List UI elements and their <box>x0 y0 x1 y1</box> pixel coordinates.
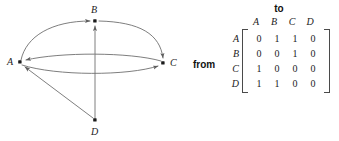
node-label-a: A <box>7 57 13 67</box>
edge-a-to-c <box>22 65 158 73</box>
matrix-cell: 1 <box>250 76 268 91</box>
matrix-column-header: A <box>247 17 265 27</box>
matrix-from-label: from <box>193 60 215 70</box>
matrix-row-header: A <box>229 31 239 46</box>
matrix-column-header: D <box>301 17 319 27</box>
matrix-row-header: D <box>229 76 239 91</box>
table-row: 1 0 0 0 <box>250 61 322 76</box>
matrix-cell: 1 <box>268 76 286 91</box>
matrix-column-header: B <box>265 17 283 27</box>
node-label-b: B <box>91 5 97 15</box>
matrix-to-label: to <box>259 4 299 14</box>
node-dot-a <box>18 60 21 63</box>
adjacency-matrix-panel: to from A B C D A B C D 0 1 1 0 <box>185 0 339 141</box>
matrix-cell: 0 <box>304 61 322 76</box>
directed-graph-panel: A B C D <box>0 0 185 141</box>
node-dot-d <box>93 118 96 121</box>
node-dot-c <box>161 61 164 64</box>
edge-b-to-c <box>99 21 163 58</box>
matrix-column-headers: A B C D <box>247 17 319 27</box>
matrix-cell: 0 <box>268 46 286 61</box>
table-row: 0 0 1 0 <box>250 46 322 61</box>
matrix-row-headers: A B C D <box>229 29 242 93</box>
matrix-cell: 1 <box>286 46 304 61</box>
node-label-c: C <box>170 58 177 68</box>
matrix-cell: 0 <box>286 76 304 91</box>
figure-container: A B C D to from A B C D A B C D 0 1 <box>0 0 339 141</box>
table-row: 0 1 1 0 <box>250 31 322 46</box>
matrix-cell: 1 <box>268 31 286 46</box>
matrix-right-bracket <box>324 29 330 93</box>
matrix-cell: 0 <box>268 61 286 76</box>
matrix-cell: 0 <box>304 76 322 91</box>
node-label-d: D <box>91 127 98 137</box>
matrix-cell: 0 <box>286 61 304 76</box>
matrix-column-header: C <box>283 17 301 27</box>
matrix-cell: 0 <box>304 46 322 61</box>
edge-c-to-a <box>26 54 161 61</box>
matrix-row-header: C <box>229 61 239 76</box>
matrix-grid: 0 1 1 0 0 0 1 0 1 0 0 0 1 <box>248 29 324 93</box>
matrix-cell: 1 <box>286 31 304 46</box>
table-row: 1 1 0 0 <box>250 76 322 91</box>
edge-d-to-a <box>25 67 93 118</box>
graph-nodes <box>18 19 164 121</box>
matrix-body: A B C D 0 1 1 0 0 0 1 0 <box>229 29 330 93</box>
matrix-cell: 0 <box>250 46 268 61</box>
matrix-row-header: B <box>229 46 239 61</box>
node-dot-b <box>93 19 96 22</box>
matrix-cell: 0 <box>250 31 268 46</box>
matrix-cell: 1 <box>250 61 268 76</box>
graph-svg <box>0 0 185 141</box>
matrix-cell: 0 <box>304 31 322 46</box>
